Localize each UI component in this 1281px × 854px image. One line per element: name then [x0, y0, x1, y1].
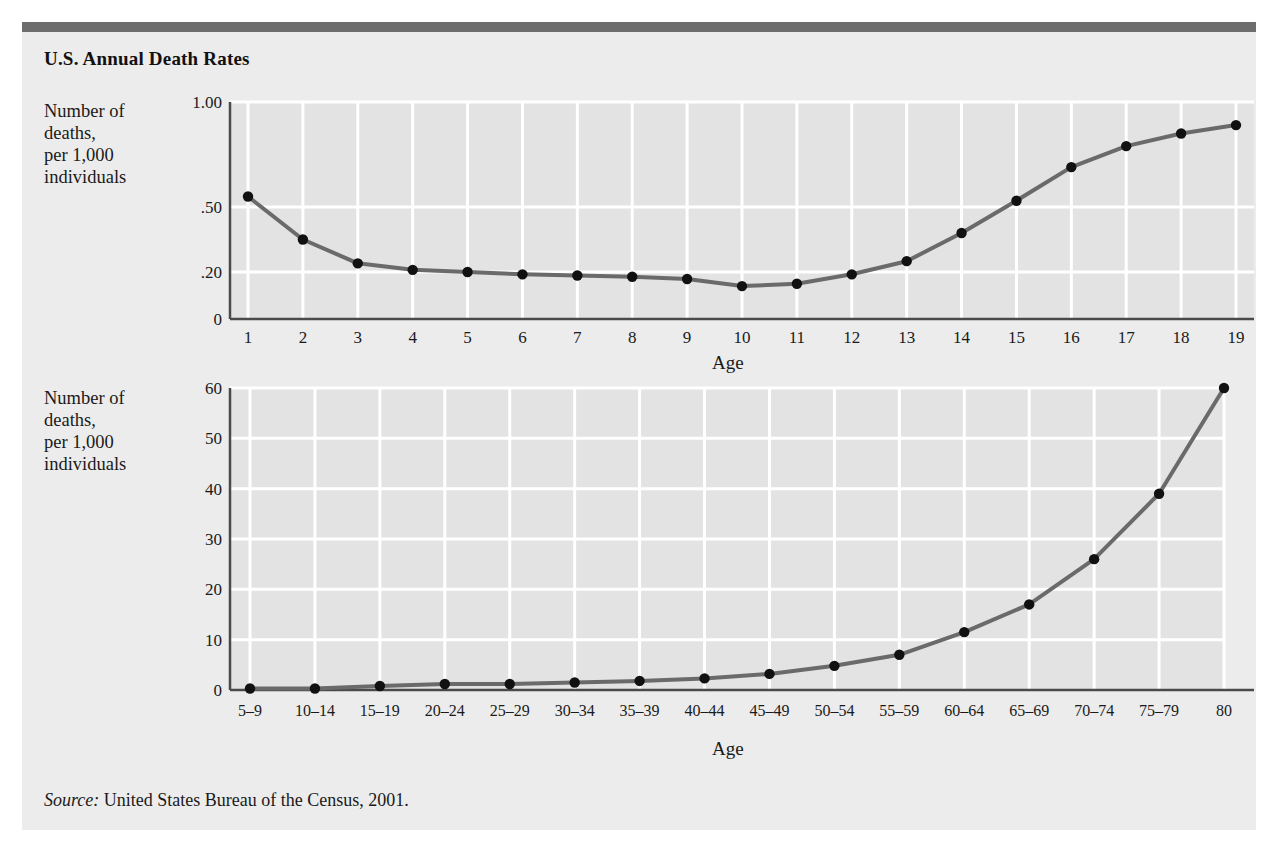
top-chart-data-point	[847, 269, 857, 279]
bottom-chart-data-point	[959, 627, 969, 637]
top-chart-data-point	[243, 191, 253, 201]
bottom-chart-data-point	[375, 681, 385, 691]
bottom-chart-x-tick: 25–29	[490, 702, 530, 719]
top-chart-data-point	[1121, 141, 1131, 151]
page-title: U.S. Annual Death Rates	[44, 48, 250, 70]
source-note: Source: United States Bureau of the Cens…	[44, 790, 409, 811]
top-chart-data-point	[792, 279, 802, 289]
top-chart-x-tick: 13	[898, 328, 915, 347]
top-chart-x-tick: 11	[789, 328, 805, 347]
top-chart-x-tick: 2	[299, 328, 308, 347]
top-chart-y-tick: 0	[214, 310, 223, 329]
bottom-chart-x-tick: 10–14	[295, 702, 335, 719]
bottom-chart-x-tick: 40–44	[685, 702, 725, 719]
bottom-chart-x-tick: 80	[1216, 702, 1232, 719]
bottom-chart-y-tick: 0	[214, 681, 223, 700]
bottom-chart-y-tick: 20	[205, 580, 222, 599]
bottom-chart-data-point	[569, 677, 579, 687]
top-chart-y-tick: 1.00	[192, 94, 222, 112]
top-chart-x-tick: 8	[628, 328, 637, 347]
top-chart-data-point	[572, 270, 582, 280]
bottom-chart-data-point	[505, 679, 515, 689]
top-chart-y-tick: .20	[201, 263, 222, 282]
bottom-chart-x-tick: 20–24	[425, 702, 465, 719]
top-chart-data-point	[956, 228, 966, 238]
top-chart-x-tick: 3	[354, 328, 363, 347]
source-label: Source:	[44, 790, 99, 810]
bottom-chart-y-tick: 60	[205, 380, 222, 398]
top-chart-data-point	[1011, 196, 1021, 206]
bottom-chart-data-point	[1219, 383, 1229, 393]
bottom-chart-data-point	[245, 683, 255, 693]
bottom-chart-x-tick: 35–39	[620, 702, 660, 719]
top-chart-x-tick: 9	[683, 328, 692, 347]
bottom-chart-data-point	[894, 650, 904, 660]
top-chart-x-tick: 6	[518, 328, 527, 347]
top-chart-x-tick: 15	[1008, 328, 1025, 347]
top-chart-x-tick: 17	[1118, 328, 1136, 347]
top-chart-data-point	[627, 272, 637, 282]
top-chart: 1.00.50.20012345678910111213141516171819	[172, 94, 1256, 364]
top-chart-x-tick: 16	[1063, 328, 1080, 347]
bottom-chart-data-point	[1089, 554, 1099, 564]
bottom-chart-x-tick: 55–59	[879, 702, 919, 719]
bottom-chart-x-tick: 60–64	[944, 702, 984, 719]
bottom-chart-data-point	[829, 661, 839, 671]
top-chart-data-point	[1231, 120, 1241, 130]
bottom-chart-x-tick: 50–54	[814, 702, 854, 719]
bottom-chart-y-tick: 40	[205, 480, 222, 499]
bottom-chart-y-tick: 50	[205, 429, 222, 448]
top-chart-data-point	[1066, 162, 1076, 172]
top-chart-x-tick: 10	[734, 328, 751, 347]
top-chart-data-point	[462, 267, 472, 277]
bottom-chart-data-point	[310, 683, 320, 693]
top-chart-x-tick: 19	[1228, 328, 1245, 347]
bottom-chart-x-tick: 30–34	[555, 702, 595, 719]
top-chart-data-point	[1176, 128, 1186, 138]
top-chart-data-point	[353, 258, 363, 268]
bottom-chart-x-tick: 65–69	[1009, 702, 1049, 719]
top-chart-x-tick: 12	[843, 328, 860, 347]
bottom-chart-y-tick: 10	[205, 631, 222, 650]
top-chart-x-tick: 5	[463, 328, 472, 347]
top-chart-y-tick: .50	[201, 198, 222, 217]
top-chart-x-tick: 7	[573, 328, 582, 347]
bottom-chart-x-tick: 15–19	[360, 702, 400, 719]
top-chart-data-point	[682, 274, 692, 284]
top-chart-data-point	[298, 234, 308, 244]
top-chart-x-axis-title: Age	[712, 352, 744, 374]
bottom-chart-x-tick: 45–49	[749, 702, 789, 719]
bottom-chart-x-tick: 5–9	[238, 702, 262, 719]
top-rule-divider	[22, 22, 1256, 32]
top-chart-x-tick: 14	[953, 328, 971, 347]
bottom-chart-data-point	[764, 669, 774, 679]
bottom-chart-data-point	[699, 673, 709, 683]
bottom-chart-data-point	[1154, 489, 1164, 499]
bottom-chart-x-tick: 75–79	[1139, 702, 1179, 719]
top-chart-data-point	[901, 256, 911, 266]
figure-panel: U.S. Annual Death Rates Number of deaths…	[22, 22, 1256, 830]
bottom-chart-data-point	[634, 676, 644, 686]
bottom-chart: 60504030201005–910–1415–1920–2425–2930–3…	[172, 380, 1256, 730]
bottom-chart-data-point	[1024, 599, 1034, 609]
top-chart-x-tick: 4	[408, 328, 417, 347]
top-chart-x-tick: 1	[244, 328, 253, 347]
bottom-chart-y-tick: 30	[205, 530, 222, 549]
bottom-chart-svg: 60504030201005–910–1415–1920–2425–2930–3…	[172, 380, 1256, 730]
bottom-chart-x-axis-title: Age	[712, 738, 744, 760]
top-chart-data-point	[517, 269, 527, 279]
top-chart-x-tick: 18	[1173, 328, 1190, 347]
bottom-chart-x-tick: 70–74	[1074, 702, 1114, 719]
bottom-chart-data-point	[440, 679, 450, 689]
top-chart-svg: 1.00.50.20012345678910111213141516171819	[172, 94, 1256, 364]
top-chart-data-point	[407, 265, 417, 275]
source-text: United States Bureau of the Census, 2001…	[99, 790, 408, 810]
top-chart-data-point	[737, 281, 747, 291]
